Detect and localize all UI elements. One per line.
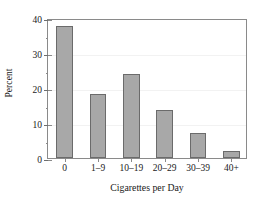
x-tick [231,158,232,162]
y-tick-label: 40 [33,15,43,25]
bar-slot [190,20,207,158]
x-tick-label: 10–19 [119,163,143,173]
x-tick [165,158,166,162]
x-tick [198,158,199,162]
x-tick [131,158,132,162]
y-tick-inner [48,160,52,161]
bar-slot [123,20,140,158]
bar-chart: Percent 010203040 01–910–1920–2930–3940+… [0,0,268,201]
y-tick-label: 10 [33,120,43,130]
bar-slot [90,20,107,158]
bar [223,151,240,158]
bar-slot [223,20,240,158]
plot-area: 010203040 01–910–1920–2930–3940+ [47,19,247,159]
y-axis-title: Percent [4,53,14,113]
bar-slot [56,20,73,158]
x-tick-label: 20–29 [153,163,177,173]
y-tick-label: 30 [33,50,43,60]
y-tick-label: 20 [33,85,43,95]
bar-slot [156,20,173,158]
x-tick-label: 1–9 [91,163,105,173]
x-axis-title: Cigarettes per Day [47,182,247,193]
bar-series [48,20,246,158]
y-tick-label: 0 [37,155,42,165]
bar [90,94,107,158]
bar [190,133,207,158]
x-tick-label: 40+ [224,163,239,173]
x-tick [65,158,66,162]
x-tick [98,158,99,162]
bar [156,110,173,158]
bar [56,26,73,158]
x-tick-label: 30–39 [186,163,210,173]
x-tick-label: 0 [62,163,67,173]
bar [123,74,140,158]
